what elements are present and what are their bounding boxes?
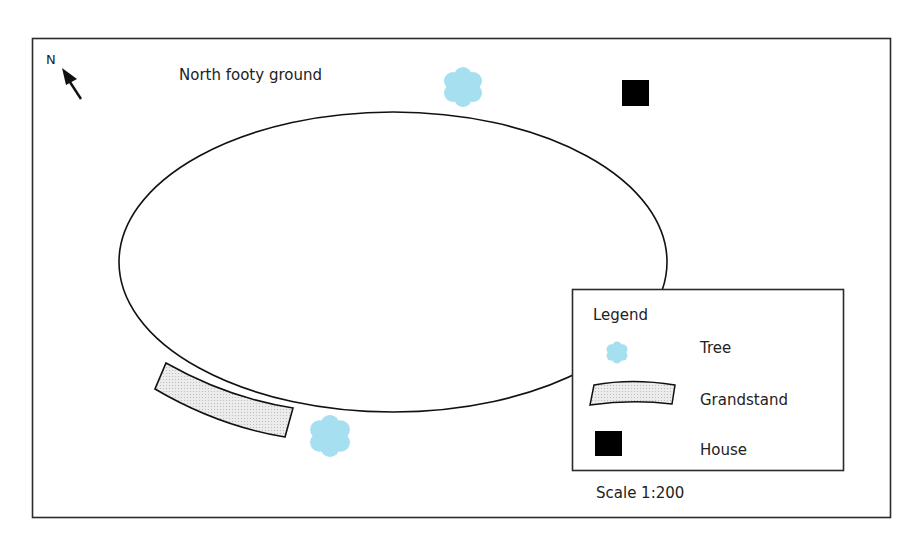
legend-label-tree: Tree bbox=[699, 339, 731, 357]
legend-tree-icon bbox=[607, 342, 628, 364]
grandstand-icon bbox=[155, 363, 293, 437]
scale-text: Scale 1:200 bbox=[596, 484, 684, 502]
house-icon bbox=[622, 80, 649, 106]
legend-label-house: House bbox=[700, 441, 747, 459]
legend-grandstand-icon bbox=[590, 382, 675, 406]
tree-icon bbox=[310, 415, 350, 457]
map-title: North footy ground bbox=[179, 66, 322, 84]
tree-icon bbox=[444, 67, 482, 107]
legend-house-icon bbox=[595, 431, 622, 456]
map-canvas: N North footy ground Legend Tree Grandst… bbox=[0, 0, 923, 540]
legend-title: Legend bbox=[593, 306, 648, 324]
north-arrow-icon bbox=[62, 68, 81, 99]
legend-label-grandstand: Grandstand bbox=[700, 391, 788, 409]
north-label: N bbox=[46, 52, 56, 67]
legend: Legend Tree Grandstand House bbox=[573, 290, 844, 471]
